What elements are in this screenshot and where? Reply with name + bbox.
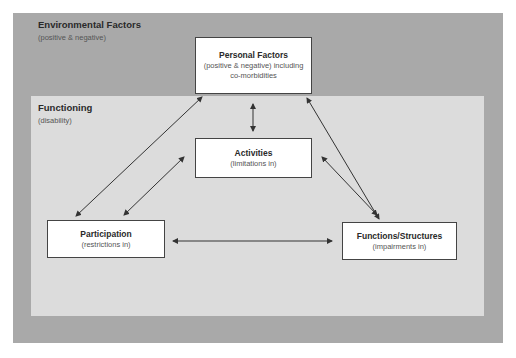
arrow-activities-participation — [124, 157, 184, 215]
personal-factors-title: Personal Factors — [219, 50, 288, 61]
arrow-activities-functions — [322, 157, 377, 215]
arrow-personal-participation — [76, 97, 202, 216]
activities-box: Activities (limitations in) — [195, 138, 312, 178]
participation-box: Participation (restrictions in) — [47, 220, 165, 258]
participation-subtitle: (restrictions in) — [81, 240, 130, 250]
participation-title: Participation — [80, 229, 131, 240]
activities-subtitle: (limitations in) — [230, 159, 276, 169]
personal-factors-line2: co-morbidities — [230, 71, 277, 81]
personal-factors-line1: (positive & negative) including — [204, 61, 304, 71]
arrow-personal-functions — [307, 98, 379, 219]
activities-title: Activities — [235, 148, 273, 159]
personal-factors-box: Personal Factors (positive & negative) i… — [195, 37, 312, 94]
functions-structures-title: Functions/Structures — [357, 231, 442, 242]
functions-structures-box: Functions/Structures (impairments in) — [342, 222, 457, 260]
functions-structures-subtitle: (impairments in) — [373, 242, 427, 252]
